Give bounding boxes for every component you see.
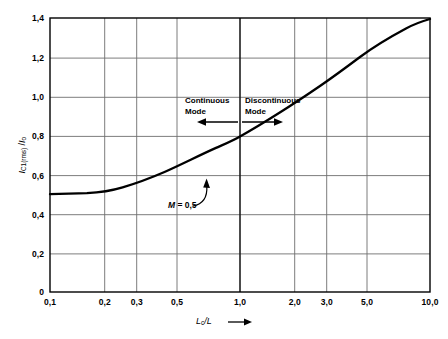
annotation-continuous-mode: Continuous Mode bbox=[185, 96, 229, 117]
x-tick-label-3-0: 3,0 bbox=[313, 297, 341, 307]
y-tick-label-0-2: 0,2 bbox=[8, 249, 44, 259]
x-tick-label-5-0: 5,0 bbox=[353, 297, 381, 307]
annotation-continuous-mode-line2: Mode bbox=[185, 107, 229, 118]
y-axis-title-slash: / bbox=[17, 143, 27, 148]
x-tick-label-0-1: 0,1 bbox=[36, 297, 64, 307]
plot-canvas bbox=[0, 0, 448, 339]
annotation-curve-label: M = 0,5 bbox=[168, 200, 197, 211]
x-tick-label-0-2: 0,2 bbox=[91, 297, 119, 307]
y-axis-title-numerator: I bbox=[17, 171, 27, 174]
x-axis-arrow bbox=[228, 319, 252, 326]
x-axis-title-tail: /L bbox=[204, 316, 212, 326]
y-tick-label-1-2: 1,2 bbox=[8, 53, 44, 63]
y-tick-label-0: 0 bbox=[14, 287, 44, 297]
annotation-continuous-mode-line1: Continuous bbox=[185, 96, 229, 107]
annotation-discontinuous-mode-line1: Discontinuous bbox=[245, 96, 301, 107]
y-tick-label-0-4: 0,4 bbox=[8, 210, 44, 220]
x-axis-title: Lc/L bbox=[196, 316, 212, 326]
y-tick-label-1-0: 1,0 bbox=[8, 92, 44, 102]
chart-figure: 0 0,2 0,4 0,6 0,8 1,0 1,2 1,4 0,1 0,2 0,… bbox=[0, 0, 448, 339]
x-tick-label-2-0: 2,0 bbox=[281, 297, 309, 307]
y-axis-title: IC1(rms) /Io bbox=[17, 109, 27, 201]
annotation-discontinuous-mode: Discontinuous Mode bbox=[245, 96, 301, 117]
annotation-curve-label-value: = 0,5 bbox=[175, 200, 197, 210]
x-tick-label-10-0: 10,0 bbox=[414, 297, 446, 307]
y-axis-title-denominator: I bbox=[17, 140, 27, 143]
x-tick-label-1-0: 1,0 bbox=[226, 297, 254, 307]
y-axis-title-numerator-sub: C1(rms) bbox=[20, 148, 27, 171]
x-tick-label-0-5: 0,5 bbox=[163, 297, 191, 307]
x-tick-label-0-3: 0,3 bbox=[123, 297, 151, 307]
y-axis-title-denominator-sub: o bbox=[20, 137, 27, 141]
y-tick-label-1-4: 1,4 bbox=[8, 13, 44, 23]
annotation-discontinuous-mode-line2: Mode bbox=[245, 107, 301, 118]
